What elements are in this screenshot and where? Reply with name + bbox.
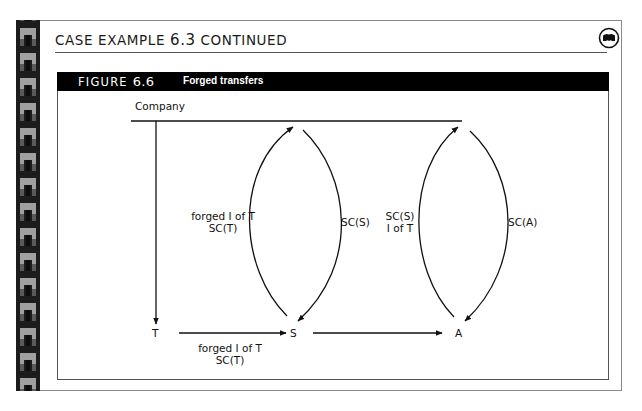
label-line: forged I of T [183,210,263,222]
arrow-s-transfer-to-company [419,127,458,317]
node-company: Company [135,100,185,112]
label-sc-s: SC(S) [341,216,370,228]
forged-transfers-diagram [0,0,642,411]
label-line: SC(T) [190,354,270,366]
label-line: SC(T) [183,222,263,234]
label-line: forged I of T [190,342,270,354]
label-s-transfer-to-company: SC(S) I of T [380,210,420,234]
arrow-company-to-a [465,131,508,321]
label-line: I of T [380,222,420,234]
label-sc-a: SC(A) [508,216,537,228]
label-forged-t-to-s: forged I of T SC(T) [190,342,270,366]
node-t: T [152,327,158,339]
arrow-company-to-s [298,130,341,321]
label-line: SC(S) [380,210,420,222]
label-forged-transfer-to-company: forged I of T SC(T) [183,210,263,234]
node-a: A [455,327,462,339]
node-s: S [290,327,297,339]
